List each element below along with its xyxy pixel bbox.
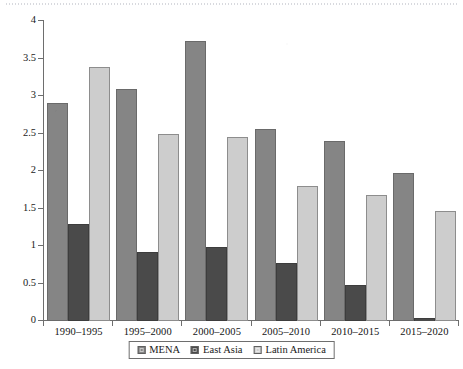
x-axis-category-label: 2000–2005 — [182, 326, 251, 337]
bar-mena — [255, 129, 276, 321]
legend-swatch-icon — [253, 346, 261, 354]
bar-group — [44, 20, 113, 321]
bar-latin-america — [366, 195, 387, 321]
bar-chart-figure: 00.511.522.533.54 1990–19951995–20002000… — [0, 0, 463, 369]
bar-mena — [185, 41, 206, 322]
x-axis-category-labels: 1990–19951995–20002000–20052005–20102010… — [44, 326, 459, 337]
bar-latin-america — [297, 186, 318, 321]
bar-group-bars — [185, 20, 248, 321]
bar-group — [390, 20, 459, 321]
bar-latin-america — [89, 67, 110, 321]
y-axis-tick-label: 1.5 — [2, 203, 36, 213]
bar-group-bars — [393, 20, 456, 321]
bar-group — [182, 20, 251, 321]
legend-item-mena: MENA — [137, 344, 180, 355]
legend-item-east-asia: East Asia — [191, 344, 242, 355]
bar-latin-america — [227, 137, 248, 321]
bar-east-asia — [345, 285, 366, 321]
bar-group-bars — [255, 20, 318, 321]
bar-east-asia — [68, 224, 89, 322]
bar-group — [252, 20, 321, 321]
y-axis-tick-label: 2 — [2, 165, 36, 175]
scan-artifact-line — [6, 3, 458, 5]
bar-group — [113, 20, 182, 321]
bar-east-asia — [276, 263, 297, 321]
x-axis-category-label: 2010–2015 — [321, 326, 390, 337]
bar-group — [321, 20, 390, 321]
x-axis-category-label: 2015–2020 — [390, 326, 459, 337]
bar-mena — [116, 89, 137, 321]
bar-mena — [47, 103, 68, 321]
x-axis-category-label: 1990–1995 — [44, 326, 113, 337]
y-axis-tick-label: 1 — [2, 240, 36, 250]
y-axis-tick-label: 4 — [2, 15, 36, 25]
bar-group-bars — [116, 20, 179, 321]
legend-label: MENA — [149, 344, 180, 355]
y-axis-tick-label: 3 — [2, 90, 36, 100]
legend-label: East Asia — [203, 344, 242, 355]
y-axis-tick-label: 0.5 — [2, 278, 36, 288]
y-axis-tick-label: 2.5 — [2, 128, 36, 138]
bar-east-asia — [137, 252, 158, 321]
bar-latin-america — [435, 211, 456, 321]
x-axis-category-label: 1995–2000 — [113, 326, 182, 337]
legend-label: Latin America — [265, 344, 325, 355]
bar-group-bars — [47, 20, 110, 321]
bar-group-bars — [324, 20, 387, 321]
bar-mena — [393, 173, 414, 321]
legend-swatch-icon — [137, 346, 145, 354]
bar-mena — [324, 141, 345, 321]
y-axis-tick-label: 0 — [2, 315, 36, 325]
bar-latin-america — [158, 134, 179, 321]
bar-east-asia — [414, 318, 435, 321]
legend-swatch-icon — [191, 346, 199, 354]
bar-groups — [44, 20, 459, 321]
y-axis-tick-label: 3.5 — [2, 53, 36, 63]
bar-east-asia — [206, 247, 227, 321]
chart-legend: MENAEast AsiaLatin America — [128, 341, 335, 359]
x-axis-category-label: 2005–2010 — [252, 326, 321, 337]
legend-item-latin-america: Latin America — [253, 344, 325, 355]
